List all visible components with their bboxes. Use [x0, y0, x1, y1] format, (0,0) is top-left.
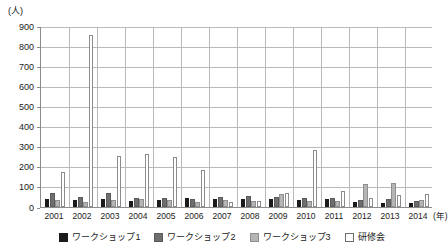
bar	[73, 200, 78, 207]
bar	[213, 199, 218, 207]
bar	[145, 154, 150, 207]
x-tick-label: 2012	[348, 212, 376, 221]
y-tick-mark	[37, 187, 40, 188]
x-tick-label: 2013	[376, 212, 404, 221]
bar	[190, 199, 195, 207]
chart-legend: ワークショップ1ワークショップ2ワークショップ3研修会	[0, 232, 444, 242]
bar-group	[377, 27, 405, 207]
black-square-icon	[59, 233, 68, 242]
bar	[229, 202, 234, 207]
bar-group	[97, 27, 125, 207]
bar	[134, 198, 139, 207]
bar-group	[181, 27, 209, 207]
y-tick-mark	[37, 147, 40, 148]
x-tick-label: 2014	[404, 212, 432, 221]
bar	[89, 35, 94, 207]
y-tick-mark	[37, 167, 40, 168]
bar	[274, 197, 279, 207]
bar	[45, 199, 50, 207]
bar	[50, 193, 55, 207]
bar	[302, 198, 307, 207]
bar	[419, 200, 424, 207]
y-tick-label: 0	[29, 204, 34, 213]
y-tick-mark	[37, 127, 40, 128]
bar-group	[349, 27, 377, 207]
x-tick-label: 2004	[124, 212, 152, 221]
bar	[251, 201, 256, 207]
bar	[223, 200, 228, 207]
y-tick-mark	[37, 87, 40, 88]
legend-item: ワークショップ1	[59, 232, 140, 242]
x-tick-label: 2006	[180, 212, 208, 221]
bar	[335, 201, 340, 207]
bar	[257, 201, 262, 207]
bar	[139, 199, 144, 207]
y-tick-label: 300	[19, 143, 34, 152]
bar	[201, 170, 206, 207]
dark-gray-square-icon	[154, 233, 163, 242]
light-gray-square-icon	[250, 233, 259, 242]
bar	[101, 199, 106, 207]
bar	[313, 150, 318, 207]
x-tick-label: 2007	[208, 212, 236, 221]
y-tick-label: 800	[19, 43, 34, 52]
bar	[185, 198, 190, 207]
bar	[117, 156, 122, 207]
y-tick-mark	[37, 27, 40, 28]
bar-group	[153, 27, 181, 207]
x-tick-label: 2011	[320, 212, 348, 221]
bar	[341, 191, 346, 207]
bar	[173, 157, 178, 207]
bar-group	[293, 27, 321, 207]
x-tick-label: 2005	[152, 212, 180, 221]
bar	[167, 200, 172, 207]
bar	[425, 194, 430, 207]
bar	[195, 202, 200, 207]
plot-area	[40, 27, 432, 208]
bar	[409, 203, 414, 207]
bar	[61, 172, 66, 207]
legend-label: ワークショップ1	[72, 232, 140, 242]
y-tick-mark	[37, 47, 40, 48]
bar	[297, 200, 302, 207]
bar	[369, 198, 374, 207]
legend-item: ワークショップ2	[154, 232, 235, 242]
bar-group	[209, 27, 237, 207]
y-tick-label: 600	[19, 83, 34, 92]
bar	[246, 196, 251, 207]
y-axis-unit-label: (人)	[8, 6, 23, 16]
white-square-icon	[345, 233, 354, 242]
bar-group	[265, 27, 293, 207]
x-tick-label: 2008	[236, 212, 264, 221]
bar	[83, 202, 88, 207]
x-axis-title: (年)	[433, 212, 448, 221]
bar	[386, 199, 391, 207]
y-tick-label: 700	[19, 63, 34, 72]
bar	[358, 200, 363, 207]
y-tick-label: 200	[19, 163, 34, 172]
bar	[218, 197, 223, 207]
bar	[307, 201, 312, 207]
bar	[363, 184, 368, 207]
bar	[157, 200, 162, 207]
bar	[325, 199, 330, 207]
bar-group	[41, 27, 69, 207]
legend-label: ワークショップ2	[167, 232, 235, 242]
x-tick-label: 2009	[264, 212, 292, 221]
bar	[241, 199, 246, 207]
bar	[397, 195, 402, 207]
y-tick-mark	[37, 107, 40, 108]
bar	[111, 200, 116, 207]
legend-item: 研修会	[345, 232, 385, 242]
y-tick-label: 900	[19, 23, 34, 32]
bar	[78, 197, 83, 207]
bar	[55, 200, 60, 207]
legend-label: 研修会	[358, 232, 385, 242]
x-tick-label: 2002	[68, 212, 96, 221]
y-tick-mark	[37, 208, 40, 209]
bar	[129, 201, 134, 207]
y-tick-label: 500	[19, 103, 34, 112]
bar	[285, 193, 290, 207]
bar-group	[125, 27, 153, 207]
